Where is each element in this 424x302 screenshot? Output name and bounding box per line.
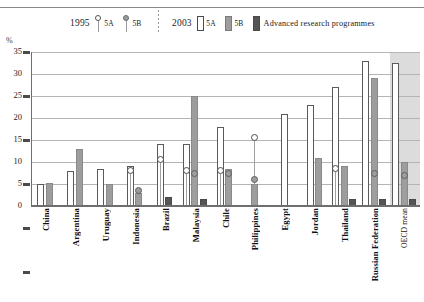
- x-axis-label-uruguay: Uruguay: [101, 208, 111, 241]
- legend-year-2003: 2003: [172, 18, 192, 28]
- y-tick-label-5: 5: [0, 178, 22, 188]
- legend-label-advanced-research: Advanced research programmes: [264, 19, 375, 28]
- x-axis-label-thailand: Thailand: [340, 208, 350, 242]
- y-tick-label-10: 10: [0, 156, 22, 166]
- x-axis-label-malaysia: Malaysia: [191, 208, 201, 242]
- top-divider-rule: [0, 7, 424, 8]
- x-axis-label-egypt: Egypt: [280, 208, 290, 230]
- y-axis-unit-label: %: [6, 36, 13, 45]
- x-axis-category-labels: ChinaArgentinaUruguayIndonesiaBrazilMala…: [31, 208, 420, 302]
- plot-axis-frame: [31, 52, 420, 206]
- x-axis-label-jordan: Jordan: [310, 208, 320, 235]
- gridline-0: [31, 206, 420, 207]
- y-tick-mark-25: [23, 139, 30, 142]
- y-tick-label-25: 25: [0, 90, 22, 100]
- y-tick-label-0: 0: [0, 200, 22, 210]
- plot-area: [31, 52, 420, 206]
- y-axis-tick-labels: 35302520151050: [0, 52, 22, 206]
- y-tick-mark-15: [23, 227, 30, 230]
- y-tick-mark-10: [23, 271, 30, 274]
- gray-bar-swatch-icon: [225, 16, 232, 31]
- legend-year-1995: 1995: [70, 18, 90, 28]
- y-tick-label-30: 30: [0, 68, 22, 78]
- white-bar-swatch-icon: [197, 16, 204, 31]
- legend-label-2003-5b: 5B: [234, 19, 243, 28]
- x-axis-label-indonesia: Indonesia: [131, 208, 141, 245]
- chart-figure: 1995 5A 5B 2003 5A 5B Advanced research …: [0, 0, 424, 302]
- x-axis-label-china: China: [41, 208, 51, 231]
- y-tick-mark-35: [23, 51, 30, 54]
- y-tick-label-20: 20: [0, 112, 22, 122]
- x-axis-label-philippines: Philippines: [250, 208, 260, 250]
- filled-circle-marker-icon: [123, 15, 130, 32]
- legend-label-2003-5a: 5A: [206, 19, 216, 28]
- y-tick-mark-20: [23, 183, 30, 186]
- legend-label-1995-5a: 5A: [104, 19, 114, 28]
- y-tick-mark-30: [23, 95, 30, 98]
- x-axis-label-argentina: Argentina: [71, 208, 81, 246]
- y-tick-label-15: 15: [0, 134, 22, 144]
- chart-legend: 1995 5A 5B 2003 5A 5B Advanced research …: [0, 13, 424, 35]
- legend-group-2003: 2003 5A 5B Advanced research programmes: [172, 13, 375, 33]
- legend-group-1995: 1995 5A 5B: [70, 13, 151, 33]
- y-tick-label-35: 35: [0, 46, 22, 56]
- x-axis-label-chile: Chile: [221, 208, 231, 228]
- x-axis-label-russian-federation: Russian Federation: [370, 208, 380, 281]
- dark-bar-swatch-icon: [253, 16, 260, 31]
- x-axis-label-brazil: Brazil: [161, 208, 171, 231]
- x-axis-label-oecd-mean: OECD mean: [400, 208, 409, 248]
- open-circle-marker-icon: [95, 15, 102, 32]
- legend-label-1995-5b: 5B: [132, 19, 141, 28]
